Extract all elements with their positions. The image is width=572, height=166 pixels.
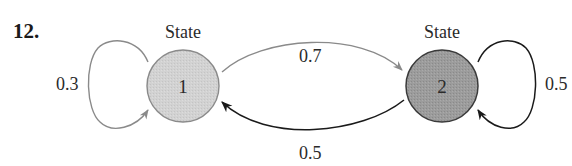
transition-2-to-2: 0.5 <box>478 41 568 128</box>
state-1-node: State 1 <box>147 22 219 122</box>
self-loop-arrow-state-2 <box>478 41 536 128</box>
transition-label-1-1: 0.3 <box>56 74 79 94</box>
transition-2-to-1: 0.5 <box>222 100 404 163</box>
self-loop-arrow-state-1 <box>88 41 148 128</box>
state-diagram: 0.3 0.7 0.5 0.5 State 1 State 2 <box>0 0 572 166</box>
state-2-node: State 2 <box>406 22 478 122</box>
transition-label-2-2: 0.5 <box>545 74 568 94</box>
transition-1-to-1: 0.3 <box>56 41 148 128</box>
arc-arrow-2-to-1 <box>222 100 404 130</box>
transition-1-to-2: 0.7 <box>222 42 402 72</box>
state-2-caption: State <box>424 22 460 42</box>
state-2-label: 2 <box>437 76 447 97</box>
state-1-caption: State <box>165 22 201 42</box>
transition-label-2-1: 0.5 <box>299 143 322 163</box>
state-1-label: 1 <box>178 76 188 97</box>
transition-label-1-2: 0.7 <box>299 46 322 66</box>
